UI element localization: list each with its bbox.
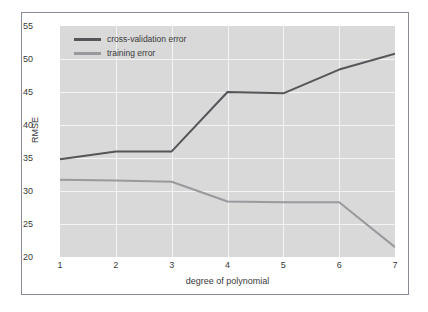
series-lines <box>60 26 395 257</box>
legend-label: training error <box>107 49 155 58</box>
y-tick-label: 25 <box>11 220 33 229</box>
legend-item: cross-validation error <box>74 35 186 44</box>
x-axis-label: degree of polynomial <box>60 276 395 286</box>
series-line <box>60 54 395 160</box>
x-tick-label: 2 <box>106 261 126 270</box>
y-tick-label: 50 <box>11 55 33 64</box>
legend-item: training error <box>74 49 186 58</box>
y-axis-label: RMSE <box>30 100 40 160</box>
plot-area <box>60 26 395 257</box>
y-tick-label: 30 <box>11 187 33 196</box>
y-tick-label: 55 <box>11 22 33 31</box>
legend: cross-validation errortraining error <box>74 35 186 58</box>
x-tick-label: 7 <box>385 261 405 270</box>
x-tick-label: 6 <box>329 261 349 270</box>
legend-label: cross-validation error <box>107 35 186 44</box>
x-tick-label: 3 <box>162 261 182 270</box>
legend-swatch-icon <box>74 52 101 55</box>
legend-swatch-icon <box>74 38 101 41</box>
x-tick-label: 5 <box>273 261 293 270</box>
x-tick-label: 1 <box>50 261 70 270</box>
plot-wrapper: RMSE degree of polynomial 20253035404550… <box>22 13 410 296</box>
chart-figure: RMSE degree of polynomial 20253035404550… <box>21 12 409 295</box>
y-tick-label: 40 <box>11 121 33 130</box>
y-tick-label: 45 <box>11 88 33 97</box>
y-tick-label: 35 <box>11 154 33 163</box>
series-line <box>60 180 395 247</box>
x-tick-label: 4 <box>218 261 238 270</box>
y-tick-label: 20 <box>11 253 33 262</box>
